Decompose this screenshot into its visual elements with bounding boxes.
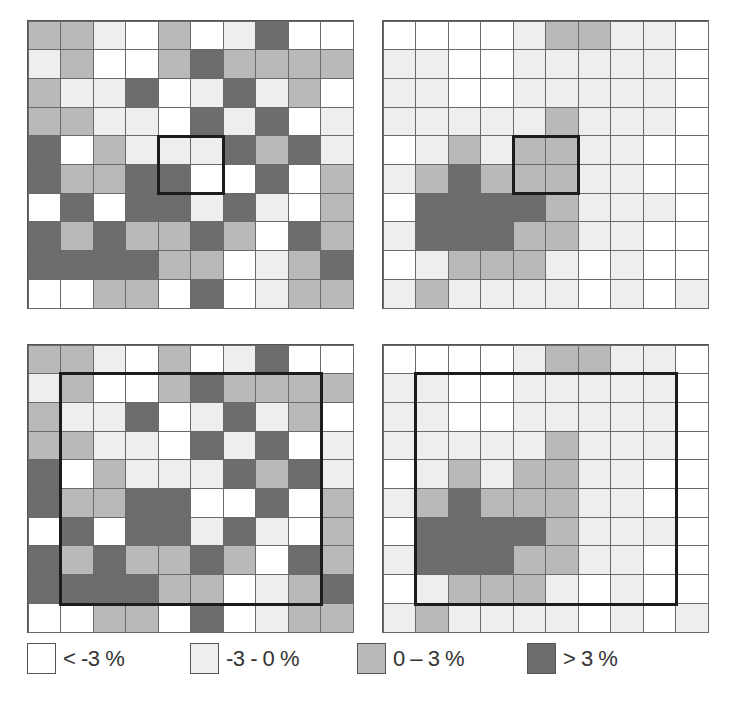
grid-cell	[578, 279, 612, 309]
grid-cell	[93, 107, 127, 137]
grid-cell	[643, 193, 677, 223]
grid-cell	[383, 459, 417, 489]
grid-cell	[513, 21, 547, 51]
grid-cell	[190, 459, 224, 489]
grid-cell	[60, 49, 94, 79]
grid-cell	[610, 279, 644, 309]
grid-cell	[675, 279, 709, 309]
grid-cell	[415, 279, 449, 309]
grid-cell	[448, 345, 482, 375]
grid-cell	[448, 373, 482, 403]
grid-cell	[513, 250, 547, 280]
grid-cell	[448, 574, 482, 604]
grid-cell	[288, 135, 322, 165]
grid-cell	[675, 603, 709, 633]
grid-cell	[255, 221, 289, 251]
grid-cell	[480, 373, 514, 403]
grid-cell	[320, 345, 354, 375]
grid-cell	[578, 221, 612, 251]
grid-cell	[223, 545, 257, 575]
grid-cell	[610, 488, 644, 518]
grid-cell	[125, 517, 159, 547]
grid-cell	[125, 193, 159, 223]
grid-cell	[288, 373, 322, 403]
grid-cell	[480, 107, 514, 137]
grid-cell	[288, 250, 322, 280]
grid-cell	[223, 459, 257, 489]
grid-cell	[610, 373, 644, 403]
grid-cell	[28, 517, 62, 547]
grid-cell	[158, 431, 192, 461]
grid-cell	[28, 603, 62, 633]
grid-cell	[223, 603, 257, 633]
grid-cell	[545, 373, 579, 403]
grid-cell	[158, 517, 192, 547]
grid-cell	[480, 603, 514, 633]
grid-cell	[610, 603, 644, 633]
grid-cell	[158, 164, 192, 194]
grid-cell	[643, 107, 677, 137]
grid-cell	[158, 574, 192, 604]
grid-cell	[578, 21, 612, 51]
grid-cell	[223, 193, 257, 223]
grid-cell	[28, 49, 62, 79]
grid-cell	[320, 603, 354, 633]
grid-cell	[255, 459, 289, 489]
grid-cell	[190, 78, 224, 108]
grid-cell	[675, 402, 709, 432]
legend-swatch-dark	[527, 643, 556, 674]
grid-cell	[60, 279, 94, 309]
grid-cell	[190, 250, 224, 280]
grid-cell	[288, 221, 322, 251]
grid-cell	[578, 431, 612, 461]
grid-cell	[288, 402, 322, 432]
grid-cell	[415, 345, 449, 375]
grid-cell	[223, 517, 257, 547]
grid-cell	[28, 164, 62, 194]
grid-cell	[610, 193, 644, 223]
legend-item-minus-3-to-0: -3 - 0 %	[190, 643, 299, 674]
grid-cell	[643, 459, 677, 489]
grid-cell	[93, 250, 127, 280]
grid-cell	[190, 345, 224, 375]
grid-cell	[545, 517, 579, 547]
grid-cell	[513, 193, 547, 223]
grid-cell	[383, 345, 417, 375]
grid-cell	[643, 545, 677, 575]
grid-cell	[545, 279, 579, 309]
grid-cell	[255, 373, 289, 403]
grid-cell	[288, 164, 322, 194]
grid-cell	[255, 517, 289, 547]
grid-cell	[480, 431, 514, 461]
grid-cell	[93, 49, 127, 79]
grid-cell	[610, 49, 644, 79]
grid-cell	[578, 193, 612, 223]
grid-cell	[383, 431, 417, 461]
grid-cell	[513, 517, 547, 547]
grid-cell	[383, 279, 417, 309]
grid-cell	[60, 164, 94, 194]
grid-top-right-smoothed	[382, 20, 709, 309]
grid-cell	[578, 517, 612, 547]
grid-cell	[610, 164, 644, 194]
grid-cell	[223, 107, 257, 137]
grid-cell	[415, 373, 449, 403]
grid-cell	[60, 21, 94, 51]
grid-cell	[643, 373, 677, 403]
grid-cell	[545, 488, 579, 518]
grid-cell	[125, 545, 159, 575]
grid-cell	[320, 459, 354, 489]
grid-cell	[190, 221, 224, 251]
grid-cell	[320, 78, 354, 108]
grid-cell	[513, 345, 547, 375]
grid-cell	[255, 488, 289, 518]
grid-cell	[158, 193, 192, 223]
grid-cell	[190, 517, 224, 547]
grid-cell	[480, 21, 514, 51]
grid-cell	[480, 488, 514, 518]
grid-cell	[545, 459, 579, 489]
grid-cell	[288, 574, 322, 604]
grid-cell	[545, 164, 579, 194]
grid-cell	[545, 545, 579, 575]
grid-cell	[610, 574, 644, 604]
